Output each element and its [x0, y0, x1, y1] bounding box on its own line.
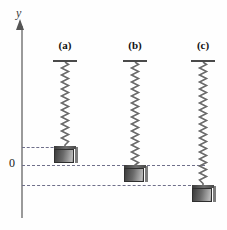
mass-block-c — [192, 185, 214, 202]
mass-block-a — [54, 146, 76, 163]
mass-block-b — [124, 165, 146, 182]
spring-a — [60, 62, 71, 148]
spring-mass-assembly-c: (c) — [181, 0, 225, 230]
column-label-a: (a) — [43, 40, 87, 51]
mass-block-c-face — [192, 188, 212, 202]
y-axis-arrow-icon — [16, 19, 24, 30]
mass-block-a-face — [54, 149, 74, 163]
y-axis-line — [21, 26, 23, 218]
mass-block-b-face — [124, 168, 144, 182]
spring-mass-assembly-a: (a) — [43, 0, 87, 230]
spring-c — [198, 62, 209, 187]
mass-block-b-side — [145, 166, 148, 182]
origin-label: 0 — [9, 157, 15, 169]
y-axis-label: y — [16, 7, 21, 19]
column-label-b: (b) — [113, 40, 157, 51]
spring-mass-figure: y 0 (a) (b) — [0, 0, 227, 230]
spring-b — [130, 62, 141, 167]
mass-block-c-side — [213, 186, 216, 202]
spring-mass-assembly-b: (b) — [113, 0, 157, 230]
column-label-c: (c) — [181, 40, 225, 51]
mass-block-a-side — [75, 147, 78, 163]
